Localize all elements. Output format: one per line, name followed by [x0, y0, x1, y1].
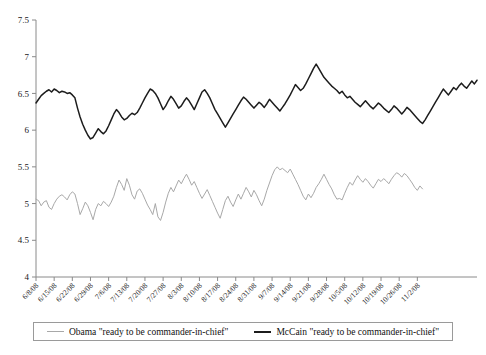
x-tick-label: 6/22/08 — [54, 281, 77, 304]
x-tick-label: 7/20/08 — [127, 281, 150, 304]
y-tick-label: 4 — [25, 272, 30, 282]
y-tick-label: 6.5 — [18, 89, 30, 99]
x-axis: 6/8/086/15/086/22/086/29/087/6/087/13/08… — [20, 277, 477, 307]
legend-label-mccain: McCain "ready to be commander-in-chief" — [276, 327, 439, 337]
y-tick-label: 7.5 — [18, 15, 30, 25]
y-tick-label: 6 — [25, 125, 30, 135]
x-tick-label: 7/27/08 — [145, 281, 168, 304]
series-lines — [36, 64, 477, 220]
obama-line-swatch — [47, 331, 64, 332]
x-tick-label: 9/21/08 — [290, 281, 313, 304]
x-tick-label: 7/13/08 — [108, 281, 131, 304]
x-tick-label: 6/29/08 — [72, 281, 95, 304]
legend-item-obama: Obama "ready to be commander-in-chief" — [47, 327, 229, 337]
y-axis: 7.576.565.554.54 — [18, 15, 36, 282]
x-tick-label: 8/24/08 — [217, 281, 240, 304]
x-tick-label: 9/28/08 — [308, 281, 331, 304]
chart-legend: Obama "ready to be commander-in-chief" M… — [33, 322, 453, 341]
x-tick-label: 8/10/08 — [181, 281, 204, 304]
series-line-obama — [36, 167, 423, 221]
x-tick-label: 6/15/08 — [36, 281, 59, 304]
mccain-line-swatch — [254, 331, 271, 333]
series-line-mccain — [36, 64, 477, 139]
legend-item-mccain: McCain "ready to be commander-in-chief" — [254, 327, 439, 337]
x-tick-label: 11/2/08 — [399, 281, 422, 304]
x-tick-label: 8/31/08 — [236, 281, 259, 304]
y-tick-label: 5.5 — [18, 162, 30, 172]
y-tick-label: 4.5 — [18, 235, 30, 245]
y-tick-label: 5 — [25, 199, 30, 209]
chart-container: 7.576.565.554.54 6/8/086/15/086/22/086/2… — [0, 0, 486, 355]
line-chart-plot: 7.576.565.554.54 6/8/086/15/086/22/086/2… — [0, 0, 486, 355]
x-tick-label: 9/14/08 — [272, 281, 295, 304]
legend-label-obama: Obama "ready to be commander-in-chief" — [69, 327, 229, 337]
x-tick-label: 8/17/08 — [199, 281, 222, 304]
y-tick-label: 7 — [25, 52, 30, 62]
